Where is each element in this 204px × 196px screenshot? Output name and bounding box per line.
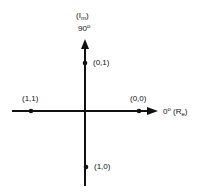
imaginary-axis-angle: 90o (78, 25, 90, 33)
imaginary-axis-label-close: ) (86, 11, 89, 20)
real-axis-label-sub: e (181, 111, 184, 117)
imaginary-axis-arrow-icon (81, 39, 89, 49)
constellation-diagram: (Im) 90o 0o (Re) (0,1) (1,1) (0,0) (1,0) (0, 0, 204, 196)
point-label-1-1: (1,1) (22, 95, 38, 103)
imaginary-axis-angle-value: 90 (78, 24, 87, 33)
point-1-1-dot (29, 109, 34, 114)
point-0-0-dot (137, 109, 142, 114)
real-axis-label-close: ) (185, 107, 188, 116)
point-0-1-dot (83, 61, 88, 66)
imaginary-axis-label-sub: m (81, 15, 86, 21)
point-label-0-0: (0,0) (130, 95, 146, 103)
real-axis-arrow-icon (147, 107, 158, 115)
point-label-0-1: (0,1) (93, 59, 109, 67)
degree-symbol: o (87, 23, 90, 29)
real-axis-label: 0o (Re) (163, 108, 188, 116)
point-label-1-0: (1,0) (94, 163, 110, 171)
imaginary-axis-label: (Im) (76, 12, 89, 20)
degree-symbol: o (167, 106, 170, 112)
point-1-0-dot (84, 165, 89, 170)
